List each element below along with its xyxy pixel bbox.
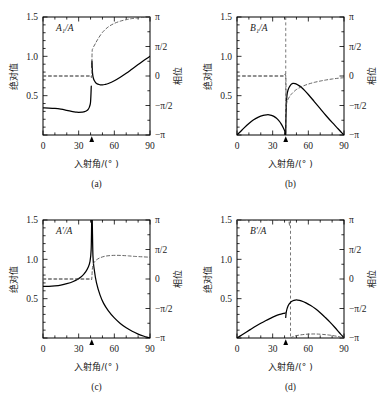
ytick-label-right: 0: [155, 274, 160, 284]
ytick-label-left: 1.0: [26, 52, 38, 62]
xtick-label: 30: [74, 344, 84, 354]
subplot-b: 03060900.51.01.5−π−π/20π/2πB₁/A入射角/(° )绝…: [194, 0, 388, 203]
critical-angle-arrow-marker: [89, 136, 94, 142]
y-axis-title-right: 相位: [172, 67, 183, 85]
ytick-label-right: −π: [155, 333, 165, 343]
xtick-label: 30: [268, 344, 278, 354]
critical-angle-arrow-marker: [283, 136, 288, 142]
xtick-label: 60: [110, 141, 120, 151]
ytick-label-right: −π: [155, 130, 165, 140]
ytick-label-left: 0.5: [26, 294, 38, 304]
ytick-label-right: π/2: [155, 42, 167, 52]
ytick-label-left: 1.5: [26, 215, 38, 225]
plot-area-b: 03060900.51.01.5−π−π/20π/2πB₁/A入射角/(° )绝…: [194, 0, 388, 203]
subplot-caption-b: (b): [285, 179, 296, 190]
plot-area-c: 03060900.51.01.5−π−π/20π/2πA′/A入射角/(° )绝…: [0, 203, 194, 406]
plot-area-a: 03060900.51.01.5−π−π/20π/2πA₁/A入射角/(° )绝…: [0, 0, 194, 203]
ytick-label-right: 0: [349, 71, 354, 81]
xtick-label: 0: [235, 344, 240, 354]
ytick-label-left: 1.5: [220, 215, 232, 225]
y-axis-title-left: 绝对值: [202, 63, 213, 90]
figure-container: 03060900.51.01.5−π−π/20π/2πA₁/A入射角/(° )绝…: [0, 0, 389, 407]
ytick-label-right: −π: [349, 333, 359, 343]
y-axis-title-left: 绝对值: [8, 63, 19, 90]
critical-angle-arrow-marker: [283, 339, 288, 345]
xtick-label: 30: [268, 141, 278, 151]
xtick-label: 90: [339, 141, 349, 151]
ytick-label-left: 0.5: [26, 91, 38, 101]
ytick-label-right: π: [349, 12, 354, 22]
ytick-label-right: −π/2: [155, 304, 173, 314]
xtick-label: 90: [339, 344, 349, 354]
subplot-a: 03060900.51.01.5−π−π/20π/2πA₁/A入射角/(° )绝…: [0, 0, 194, 203]
ytick-label-right: π: [155, 12, 160, 22]
ytick-label-left: 0.5: [220, 294, 232, 304]
critical-angle-arrow-marker: [89, 339, 94, 345]
ytick-label-left: 1.5: [26, 12, 38, 22]
y-axis-title-right: 相位: [172, 270, 183, 288]
x-axis-title: 入射角/(° ): [74, 361, 118, 372]
x-axis-title: 入射角/(° ): [74, 158, 118, 169]
ytick-label-right: π: [155, 215, 160, 225]
curve-label-d: B′/A: [250, 226, 267, 236]
ytick-label-right: π: [349, 215, 354, 225]
xtick-label: 0: [41, 344, 46, 354]
curve-label-b: B₁/A: [250, 23, 268, 33]
xtick-label: 90: [145, 344, 155, 354]
xtick-label: 60: [304, 344, 314, 354]
subplot-d: 03060900.51.01.5−π−π/20π/2πB′/A入射角/(° )绝…: [194, 203, 388, 406]
x-axis-title: 入射角/(° ): [268, 361, 312, 372]
plot-area-d: 03060900.51.01.5−π−π/20π/2πB′/A入射角/(° )绝…: [194, 203, 388, 406]
ytick-label-right: −π/2: [155, 101, 173, 111]
ytick-label-right: −π/2: [349, 101, 367, 111]
y-axis-title-right: 相位: [366, 270, 377, 288]
subplot-caption-d: (d): [285, 382, 296, 393]
xtick-label: 0: [41, 141, 46, 151]
y-axis-title-left: 绝对值: [8, 266, 19, 293]
y-axis-title-right: 相位: [366, 67, 377, 85]
xtick-label: 60: [110, 344, 120, 354]
subplot-caption-c: (c): [91, 382, 102, 393]
xtick-label: 90: [145, 141, 155, 151]
ytick-label-right: π/2: [155, 245, 167, 255]
ytick-label-right: 0: [349, 274, 354, 284]
subplot-caption-a: (a): [91, 179, 102, 190]
ytick-label-left: 1.5: [220, 12, 232, 22]
curve-label-a: A₁/A: [55, 23, 74, 33]
ytick-label-left: 1.0: [220, 255, 232, 265]
xtick-label: 30: [74, 141, 84, 151]
ytick-label-right: π/2: [349, 42, 361, 52]
x-axis-title: 入射角/(° ): [268, 158, 312, 169]
ytick-label-left: 1.0: [220, 52, 232, 62]
ytick-label-right: −π: [349, 130, 359, 140]
ytick-label-right: −π/2: [349, 304, 367, 314]
xtick-label: 0: [235, 141, 240, 151]
y-axis-title-left: 绝对值: [202, 266, 213, 293]
curve-label-c: A′/A: [55, 226, 73, 236]
ytick-label-right: π/2: [349, 245, 361, 255]
ytick-label-right: 0: [155, 71, 160, 81]
ytick-label-left: 1.0: [26, 255, 38, 265]
ytick-label-left: 0.5: [220, 91, 232, 101]
xtick-label: 60: [304, 141, 314, 151]
subplot-c: 03060900.51.01.5−π−π/20π/2πA′/A入射角/(° )绝…: [0, 203, 194, 406]
